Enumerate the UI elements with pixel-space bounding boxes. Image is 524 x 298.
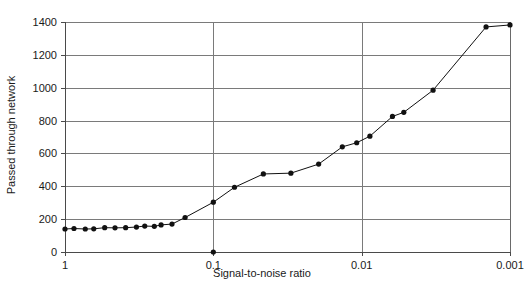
y-tick-label-0: 0: [51, 246, 57, 258]
data-point: [123, 225, 128, 230]
x-tick-label-1: 1: [62, 259, 68, 271]
data-point: [288, 171, 293, 176]
y-tick-label-600: 600: [39, 147, 57, 159]
data-point: [483, 24, 488, 29]
data-point: [152, 224, 157, 229]
data-point: [134, 224, 139, 229]
data-point: [142, 223, 147, 228]
data-point: [354, 140, 359, 145]
data-point: [340, 144, 345, 149]
data-point: [261, 171, 266, 176]
data-point: [211, 200, 216, 205]
data-point: [232, 185, 237, 190]
data-point: [62, 226, 67, 231]
line-chart-svg: 0200400600800100012001400 10.10.010.001 …: [0, 0, 524, 298]
data-point: [183, 215, 188, 220]
data-point: [71, 226, 76, 231]
data-point: [430, 88, 435, 93]
x-tick-label-0.01: 0.01: [351, 259, 372, 271]
data-point: [169, 221, 174, 226]
x-tick-label-0.001: 0.001: [496, 259, 524, 271]
data-point: [91, 226, 96, 231]
y-tick-label-400: 400: [39, 180, 57, 192]
data-point: [211, 249, 216, 254]
data-point: [507, 22, 512, 27]
y-tick-label-200: 200: [39, 213, 57, 225]
data-point: [401, 110, 406, 115]
data-point: [316, 162, 321, 167]
data-point: [367, 134, 372, 139]
y-tick-label-1000: 1000: [33, 82, 57, 94]
data-point: [102, 225, 107, 230]
data-point: [390, 114, 395, 119]
data-point: [83, 226, 88, 231]
data-point: [158, 222, 163, 227]
y-tick-labels: 0200400600800100012001400: [33, 16, 57, 258]
x-axis-title: Signal-to-noise ratio: [213, 267, 311, 279]
plot-frame: [65, 22, 511, 253]
y-tick-label-1200: 1200: [33, 49, 57, 61]
chart-container: 0200400600800100012001400 10.10.010.001 …: [0, 0, 524, 298]
data-point: [112, 225, 117, 230]
y-axis-title: Passed through network: [5, 75, 17, 194]
gridlines-group: [65, 22, 511, 253]
y-tick-marks: [61, 23, 65, 253]
y-tick-label-1400: 1400: [33, 16, 57, 28]
y-tick-label-800: 800: [39, 115, 57, 127]
